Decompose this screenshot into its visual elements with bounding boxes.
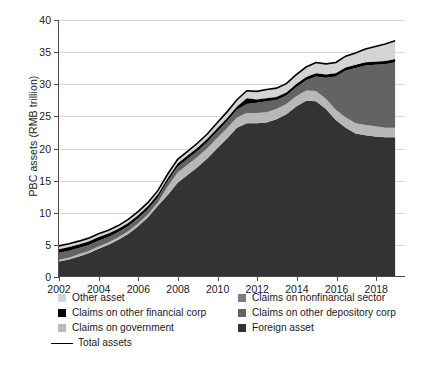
legend-label: Other asset xyxy=(72,292,125,304)
legend-item[interactable]: Claims on nonfinancial sector xyxy=(238,292,418,304)
legend-line-swatch xyxy=(51,343,73,344)
legend-item[interactable]: Claims on other depository corp xyxy=(238,307,418,319)
legend-label: Foreign asset xyxy=(252,322,314,334)
plot-area: 0510152025303540200220042006200820102012… xyxy=(58,20,405,277)
legend-color-swatch xyxy=(238,324,246,332)
y-axis-title: PBC assets (RMB trillion) xyxy=(27,11,39,261)
y-axis-tick-label: 5 xyxy=(45,239,51,251)
y-axis-tick-label: 10 xyxy=(39,207,51,219)
x-axis-tick xyxy=(257,276,258,281)
legend-row: Claims on governmentForeign asset xyxy=(58,322,418,334)
y-axis-tick-label: 35 xyxy=(39,46,51,58)
legend-item[interactable]: Total assets xyxy=(58,337,238,349)
legend-label: Claims on government xyxy=(72,322,174,334)
y-axis-tick-label: 25 xyxy=(39,110,51,122)
y-axis-tick-label: 20 xyxy=(39,143,51,155)
legend-color-swatch xyxy=(58,309,66,317)
chart-root: PBC assets (RMB trillion) 05101520253035… xyxy=(0,0,425,371)
legend-label: Claims on nonfinancial sector xyxy=(252,292,385,304)
x-axis-tick xyxy=(376,276,377,281)
legend-color-swatch xyxy=(238,309,246,317)
legend-row: Claims on other financial corpClaims on … xyxy=(58,307,418,319)
x-axis-tick xyxy=(138,276,139,281)
legend-label: Claims on other financial corp xyxy=(72,307,206,319)
legend-item[interactable]: Other asset xyxy=(58,292,238,304)
y-axis-tick-label: 0 xyxy=(45,271,51,283)
x-axis-tick xyxy=(297,276,298,281)
y-axis-tick-label: 40 xyxy=(39,14,51,26)
x-axis-tick xyxy=(99,276,100,281)
legend-color-swatch xyxy=(58,324,66,332)
legend-row: Other assetClaims on nonfinancial sector xyxy=(58,292,418,304)
legend-color-swatch xyxy=(238,294,246,302)
legend-item[interactable]: Claims on other financial corp xyxy=(58,307,238,319)
y-axis-tick-label: 30 xyxy=(39,78,51,90)
legend-label: Total assets xyxy=(78,337,132,349)
legend-item[interactable]: Foreign asset xyxy=(238,322,418,334)
legend-label: Claims on other depository corp xyxy=(252,307,396,319)
legend-color-swatch xyxy=(58,294,66,302)
x-axis-tick xyxy=(337,276,338,281)
total-assets-path xyxy=(59,41,395,246)
y-axis-tick-label: 15 xyxy=(39,175,51,187)
legend-item[interactable]: Claims on government xyxy=(58,322,238,334)
x-axis-tick xyxy=(218,276,219,281)
chart-legend: Other assetClaims on nonfinancial sector… xyxy=(58,292,418,352)
legend-row: Total assets xyxy=(58,337,418,349)
total-assets-line xyxy=(59,20,405,276)
x-axis-tick xyxy=(178,276,179,281)
x-axis-tick xyxy=(59,276,60,281)
